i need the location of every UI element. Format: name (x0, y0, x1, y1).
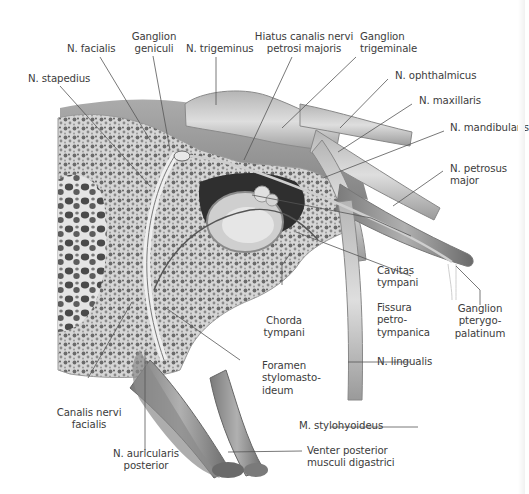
label-ganglion-geniculi: Ganglion geniculi (131, 31, 177, 56)
label-n-auricularis-posterior: N. auricularis posterior (112, 448, 180, 473)
label-ganglion-trigeminale: Ganglion trigeminale (360, 31, 417, 56)
label-m-stylohyoideus: M. stylohyoideus (299, 420, 383, 432)
label-n-maxillaris: N. maxillaris (419, 95, 481, 107)
label-n-trigeminus: N. trigeminus (186, 43, 254, 55)
label-chorda-tympani: Chorda tympani (262, 315, 306, 340)
label-ganglion-pterygopalatinum: Ganglion pterygo- palatinum (450, 303, 510, 340)
geniculate-ganglion (174, 151, 190, 161)
label-canalis-nervi-facialis: Canalis nervi facialis (54, 407, 124, 432)
label-hiatus-canalis: Hiatus canalis nervi petrosi majoris (252, 31, 356, 56)
page-edge-shadow (518, 0, 525, 494)
label-venter-posterior: Venter posterior musculi digastrici (307, 445, 395, 470)
label-n-facialis: N. facialis (67, 43, 115, 55)
label-fissura-petrotympanica: Fissura petro- tympanica (377, 302, 430, 339)
label-n-ophthalmicus: N. ophthalmicus (395, 70, 476, 82)
label-n-lingualis: N. lingualis (377, 356, 432, 368)
label-foramen-stylomastoideum: Foramen stylomasto- ideum (262, 360, 321, 397)
pterygopalatine-threads (448, 264, 456, 300)
label-cavitas-tympani: Cavitas tympani (377, 265, 418, 290)
label-n-petrosus-major: N. petrosus major (450, 163, 507, 188)
label-n-stapedius: N. stapedius (28, 73, 90, 85)
